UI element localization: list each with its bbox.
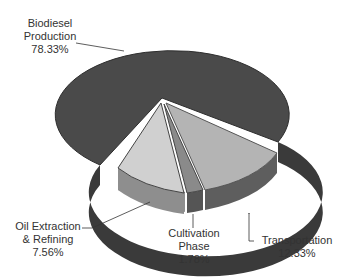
label-cultivation-line1: Cultivation (164, 227, 224, 240)
label-transportation: Transportation 12.33% (254, 234, 340, 260)
label-biodiesel-line1: Biodiesel (18, 17, 82, 30)
label-oil: Oil Extraction & Refining 7.56% (12, 220, 84, 259)
label-biodiesel-value: 78.33% (18, 43, 82, 56)
label-biodiesel-line2: Production (18, 30, 82, 43)
label-cultivation-value: 1.78% (164, 253, 224, 266)
leader-biodiesel (76, 43, 124, 51)
label-oil-value: 7.56% (12, 246, 84, 259)
label-transportation-value: 12.33% (254, 247, 340, 260)
label-cultivation-line2: Phase (164, 240, 224, 253)
label-oil-line2: & Refining (12, 233, 84, 246)
label-cultivation: Cultivation Phase 1.78% (164, 227, 224, 266)
label-oil-line1: Oil Extraction (12, 220, 84, 233)
label-biodiesel: Biodiesel Production 78.33% (18, 17, 82, 56)
label-transportation-line1: Transportation (254, 234, 340, 247)
pie-chart: Biodiesel Production 78.33% Transportati… (0, 0, 342, 278)
slice-cultivation-side (187, 190, 203, 213)
